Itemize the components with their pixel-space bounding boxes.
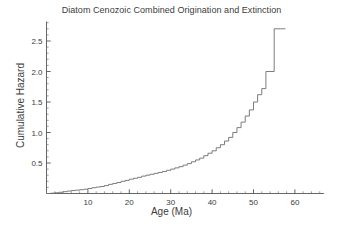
plot-area: 1020304050600.51.01.52.02.5 bbox=[0, 0, 343, 230]
chart-figure: Diatom Cenozoic Combined Origination and… bbox=[0, 0, 343, 230]
y-tick-label: 2.5 bbox=[31, 37, 43, 46]
y-axis-label: Cumulative Hazard bbox=[15, 31, 26, 181]
tick-marks-group bbox=[47, 23, 320, 194]
hazard-step-curve bbox=[47, 29, 286, 194]
data-series-group bbox=[47, 29, 286, 194]
y-tick-label: 2.0 bbox=[31, 68, 43, 77]
tick-labels-group: 1020304050600.51.01.52.02.5 bbox=[31, 37, 300, 207]
y-tick-label: 1.5 bbox=[31, 98, 43, 107]
axes-group bbox=[47, 21, 324, 193]
x-axis-label: Age (Ma) bbox=[0, 206, 343, 217]
y-tick-label: 1.0 bbox=[31, 129, 43, 138]
y-tick-label: 0.5 bbox=[31, 159, 43, 168]
